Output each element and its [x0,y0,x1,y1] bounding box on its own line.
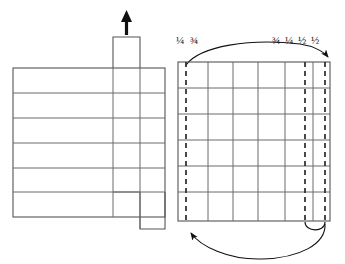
bottom-direction-arc [191,224,325,259]
right-body-outline [178,62,330,221]
left-upper-tab [113,37,140,68]
right-row-lines [178,88,330,192]
right-dashed-seam-lines [186,62,325,221]
left-row-lines [13,93,165,192]
left-lower-tab [140,192,165,229]
bottom-hook-curve [305,222,325,230]
left-piece-diagram [13,10,165,229]
label-right-fractions: ¾ ¼ ½ ½ [272,34,320,46]
figure-root: ¼ ¾ ¾ ¼ ½ ½ [0,0,345,264]
label-left-fractions: ¼ ¾ [176,34,200,46]
right-piece-diagram [178,42,330,259]
grain-direction-arrow [121,10,132,35]
left-column-lines [113,68,140,229]
right-column-lines [208,62,313,221]
diagram-canvas: ¼ ¾ ¾ ¼ ½ ½ [0,0,345,264]
